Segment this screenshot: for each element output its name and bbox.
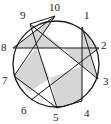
point-label-9: 9 [20, 10, 26, 21]
point-label-4: 4 [84, 108, 90, 119]
point-label-1: 1 [84, 10, 90, 21]
point-label-6: 6 [21, 105, 27, 116]
point-label-5: 5 [53, 112, 59, 123]
chord-diagram [0, 0, 111, 124]
point-label-3: 3 [103, 76, 109, 87]
point-label-8: 8 [1, 42, 7, 53]
point-label-2: 2 [101, 40, 107, 51]
point-label-10: 10 [49, 2, 60, 13]
point-label-7: 7 [2, 75, 8, 86]
